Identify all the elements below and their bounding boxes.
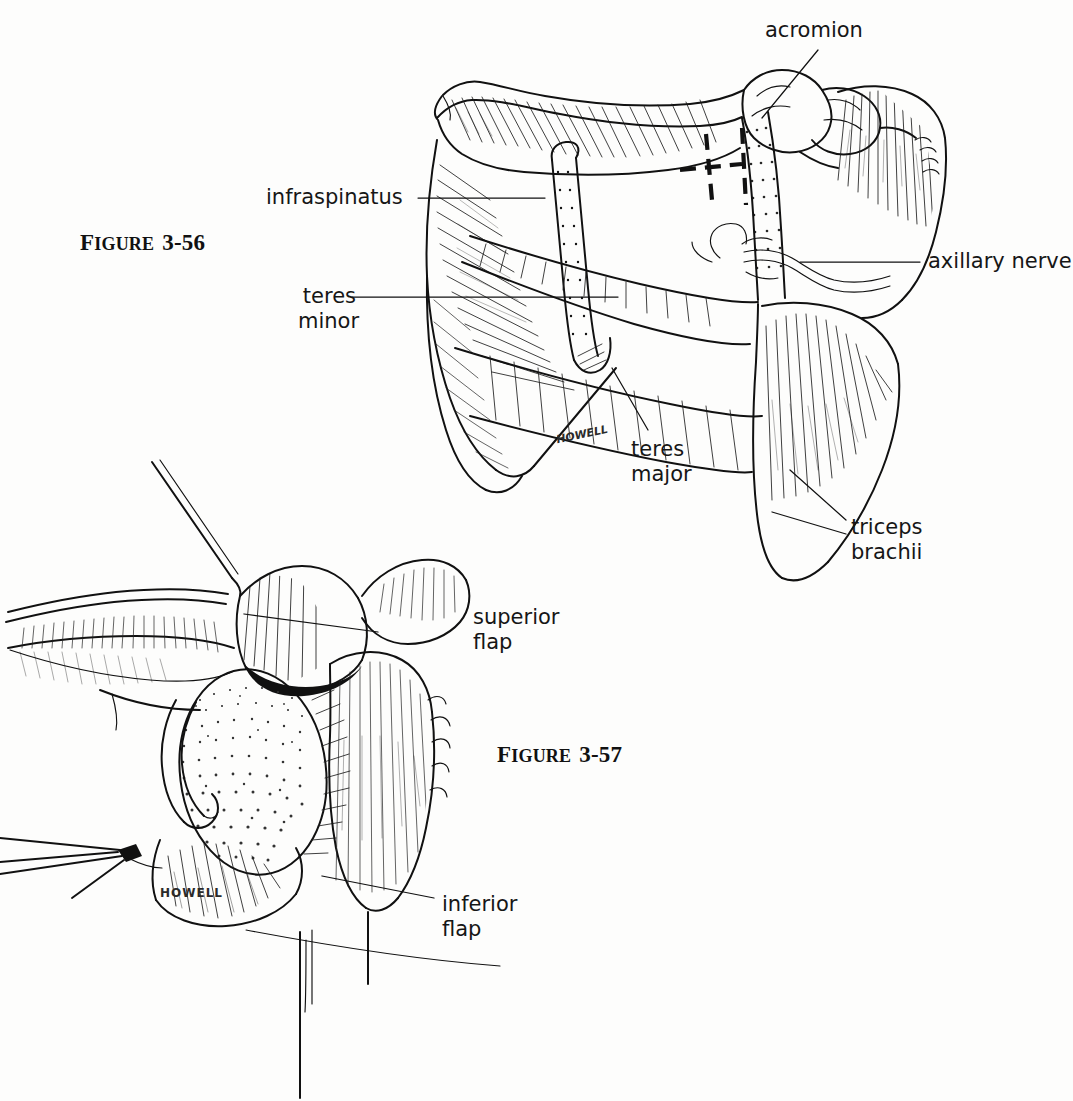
figure-caption-number: 3-57: [579, 742, 622, 767]
label-teres-major-line2: major: [631, 462, 692, 487]
illustration-page: FIGURE3-56 FIGURE3-57 acromion infraspin…: [0, 0, 1073, 1101]
artist-signature-figure-3-57: HOWELL: [160, 886, 223, 900]
label-inferior-flap: inferior flap: [442, 892, 517, 942]
figure-caption-prefix: F: [80, 230, 94, 255]
incision-marks: [680, 128, 746, 205]
label-triceps-brachii-line1: triceps: [851, 515, 922, 539]
label-infraspinatus: infraspinatus: [266, 185, 403, 210]
figure-3-57-leaders: [244, 614, 434, 898]
axillary-nerve-structure: [692, 223, 890, 292]
figure-3-57-artwork: [0, 460, 500, 1098]
label-infraspinatus-line1: infraspinatus: [266, 185, 403, 209]
label-superior-flap: superior flap: [473, 605, 559, 655]
figure-caption-word: IGURE: [511, 746, 571, 766]
label-triceps-brachii-line2: brachii: [851, 540, 922, 565]
figure-caption-prefix: F: [497, 742, 511, 767]
figure-caption-word: IGURE: [94, 234, 154, 254]
label-superior-flap-line1: superior: [473, 605, 559, 629]
label-superior-flap-line2: flap: [473, 630, 559, 655]
label-axillary-nerve: axillary nerve: [928, 249, 1072, 274]
label-inferior-flap-line2: flap: [442, 917, 517, 942]
label-acromion: acromion: [765, 18, 863, 43]
label-acromion-line1: acromion: [765, 18, 863, 42]
figure-caption-number: 3-56: [162, 230, 205, 255]
figure-3-57-caption: FIGURE3-57: [497, 742, 622, 768]
figure-3-56-caption: FIGURE3-56: [80, 230, 205, 256]
label-teres-minor: teres minor: [298, 284, 356, 334]
label-inferior-flap-line1: inferior: [442, 892, 517, 916]
label-teres-minor-line2: minor: [298, 309, 356, 334]
label-teres-minor-line1: teres: [303, 284, 356, 308]
figure-3-56-artwork: [352, 50, 946, 580]
artist-signature-figure-3-56: HOWELL: [555, 423, 609, 447]
label-teres-major-line1: teres: [631, 437, 684, 461]
label-teres-major: teres major: [631, 437, 692, 487]
label-triceps-brachii: triceps brachii: [851, 515, 922, 565]
label-axillary-nerve-line1: axillary nerve: [928, 249, 1072, 273]
